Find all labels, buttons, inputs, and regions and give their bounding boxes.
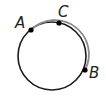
label-c: C (58, 3, 69, 21)
label-b: B (89, 64, 99, 82)
point-b (82, 67, 87, 72)
circle (18, 22, 86, 90)
point-a (28, 27, 33, 32)
arc-acb (31, 20, 89, 70)
label-a: A (14, 14, 25, 32)
circle-diagram: A C B (0, 0, 106, 101)
point-c (56, 20, 61, 25)
